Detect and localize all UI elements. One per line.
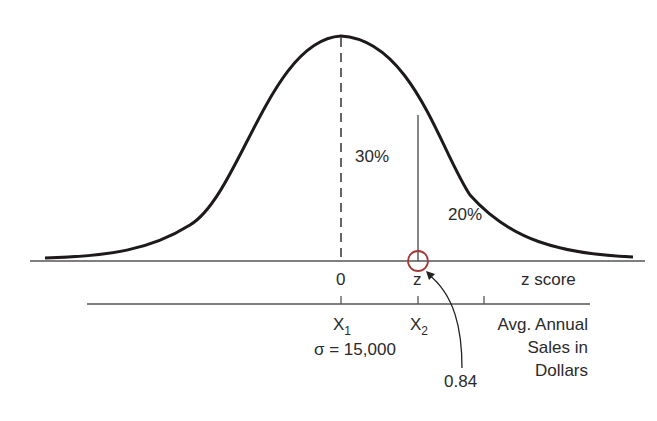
z-axis-title: z score — [521, 270, 576, 290]
sigma-label: σ = 15,000 — [314, 340, 396, 360]
region-label-tail: 20% — [448, 205, 482, 225]
x2-subscript: 2 — [421, 324, 428, 338]
sales-axis-title: Avg. Annual Sales in Dollars — [470, 315, 588, 381]
z-label: z — [413, 270, 422, 290]
x1-label: X1 — [333, 315, 351, 336]
z-zero-label: 0 — [336, 270, 345, 290]
x2-label: X2 — [410, 315, 428, 336]
x1-subscript: 1 — [344, 324, 351, 338]
axis-title-line-2: Sales in — [470, 338, 588, 358]
x1-text: X — [333, 315, 344, 334]
axis-title-line-3: Dollars — [470, 361, 588, 381]
z-value-annotation: 0.84 — [444, 372, 477, 392]
annotation-arrow — [428, 274, 462, 368]
x2-text: X — [410, 315, 421, 334]
bell-curve — [45, 36, 633, 258]
region-label-center: 30% — [355, 147, 389, 167]
axis-title-line-1: Avg. Annual — [470, 315, 588, 335]
